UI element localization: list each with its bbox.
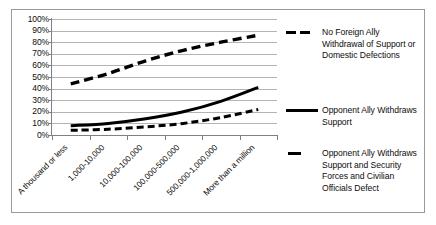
x-axis-tick-mark bbox=[52, 136, 53, 140]
y-axis-tick-mark bbox=[48, 123, 52, 124]
series-line-1 bbox=[71, 35, 259, 84]
series-line-2 bbox=[71, 87, 259, 125]
x-axis-tick-mark bbox=[90, 136, 91, 140]
legend-dash-segment bbox=[288, 152, 301, 155]
x-axis-tick-mark bbox=[240, 136, 241, 140]
x-axis-tick-mark bbox=[202, 136, 203, 140]
y-axis-tick-mark bbox=[48, 89, 52, 90]
legend-label-line: No Foreign Ally bbox=[322, 27, 426, 39]
x-axis-tick-mark bbox=[127, 136, 128, 140]
chart-container: 100%90%80%70%60%50%40%30%20%10%0% A thou… bbox=[0, 0, 436, 225]
legend-label: Opponent Ally WithdrawsSupport and Secur… bbox=[322, 148, 426, 194]
y-axis-tick-mark bbox=[48, 77, 52, 78]
short-dash-line-marker bbox=[286, 152, 301, 155]
legend-label: Opponent Ally WithdrawsSupport bbox=[322, 105, 426, 128]
x-axis-tick-mark bbox=[165, 136, 166, 140]
legend-label-line: Officials Defect bbox=[322, 183, 426, 195]
dashed-line-marker bbox=[286, 31, 310, 34]
y-axis-tick-mark bbox=[48, 54, 52, 55]
y-axis-tick-mark bbox=[48, 112, 52, 113]
y-axis-tick-mark bbox=[48, 31, 52, 32]
legend-line-solid bbox=[286, 109, 318, 112]
legend-dash-segment bbox=[300, 31, 310, 34]
y-axis-tick-mark bbox=[48, 42, 52, 43]
y-axis-tick-mark bbox=[48, 100, 52, 101]
legend-dash-segment bbox=[286, 31, 296, 34]
y-axis-tick-mark bbox=[48, 19, 52, 20]
legend-label-line: Support bbox=[322, 117, 426, 129]
legend-entry-3[interactable]: Opponent Ally WithdrawsSupport and Secur… bbox=[286, 148, 426, 194]
legend-label-line: Forces and Civilian bbox=[322, 171, 426, 183]
x-axis-tick-mark bbox=[277, 136, 278, 140]
legend-label: No Foreign AllyWithdrawal of Support orD… bbox=[322, 27, 426, 62]
legend-label-line: Domestic Defections bbox=[322, 50, 426, 62]
legend-entry-2[interactable]: Opponent Ally WithdrawsSupport bbox=[286, 105, 426, 128]
legend-label-line: Support and Security bbox=[322, 160, 426, 172]
legend-label-line: Opponent Ally Withdraws bbox=[322, 105, 426, 117]
legend-entry-1[interactable]: No Foreign AllyWithdrawal of Support orD… bbox=[286, 27, 426, 62]
legend-label-line: Withdrawal of Support or bbox=[322, 39, 426, 51]
solid-line-marker bbox=[286, 109, 318, 112]
y-axis-tick-mark bbox=[48, 65, 52, 66]
series-line-3 bbox=[71, 109, 259, 130]
legend-label-line: Opponent Ally Withdraws bbox=[322, 148, 426, 160]
